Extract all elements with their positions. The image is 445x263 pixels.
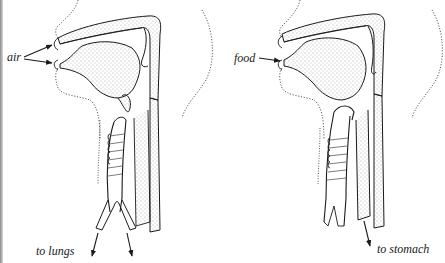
pharynx-wall xyxy=(150,98,160,232)
air-arrow-mouth xyxy=(24,59,52,63)
food-label: food xyxy=(234,52,255,64)
lungs-arrow-right xyxy=(127,233,132,256)
tongue xyxy=(284,38,366,100)
pharynx-wall xyxy=(374,94,384,228)
to-stomach-label: to stomach xyxy=(377,243,429,255)
neck-back xyxy=(182,10,212,118)
diagram-canvas: air to lungs food to stomach xyxy=(0,0,445,263)
air-label: air xyxy=(7,51,21,63)
panel-swallowing xyxy=(259,0,442,246)
diagram-drawing xyxy=(0,0,445,263)
stomach-arrow xyxy=(364,221,370,246)
epiglottis xyxy=(118,95,130,112)
panel-breathing xyxy=(24,0,212,256)
bronchi xyxy=(96,200,136,230)
air-arrow-nose xyxy=(24,45,52,57)
esophagus xyxy=(134,110,150,226)
to-lungs-label: to lungs xyxy=(36,245,74,257)
esophagus xyxy=(356,110,370,220)
epiglottis xyxy=(334,106,354,120)
food-arrow-mouth xyxy=(259,58,280,61)
tongue xyxy=(60,42,140,98)
trachea xyxy=(324,112,350,226)
trachea xyxy=(107,117,126,212)
lungs-arrow-left xyxy=(92,233,98,256)
